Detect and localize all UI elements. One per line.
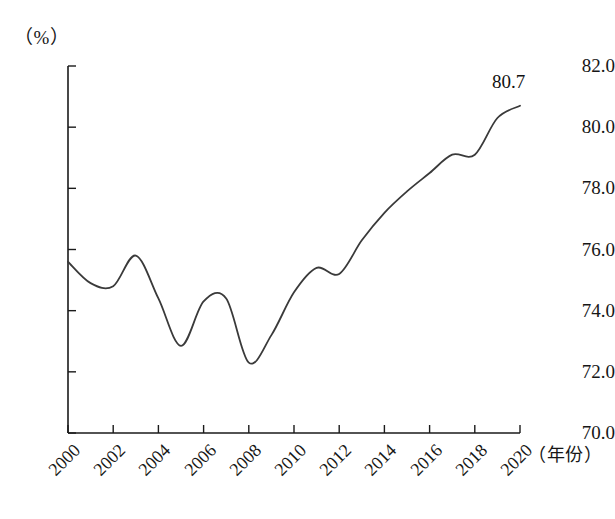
line-chart: （%） （年份） 70.072.074.076.078.080.082.0 20… <box>0 0 615 519</box>
data-series-line <box>68 106 520 364</box>
endpoint-value-label: 80.7 <box>492 71 525 93</box>
axes <box>68 66 520 433</box>
x-axis-ticks <box>68 425 520 433</box>
y-axis-ticks <box>68 66 76 433</box>
